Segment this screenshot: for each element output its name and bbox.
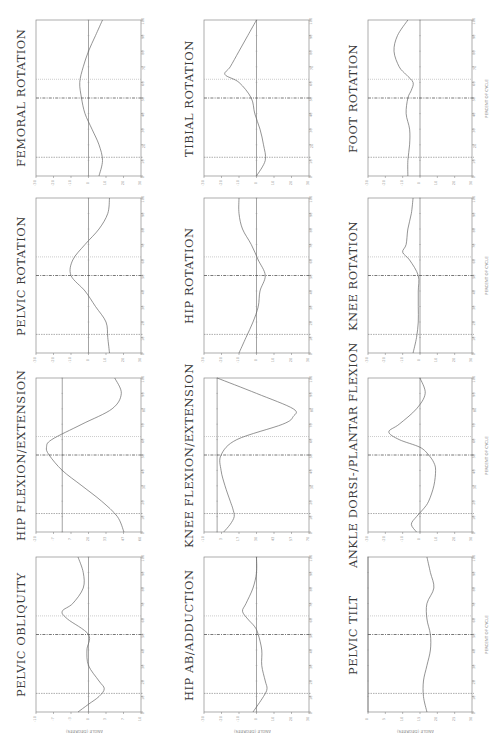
percent-tick-label: 50 [310, 274, 314, 279]
percent-tick-label: 20 [142, 143, 146, 148]
percent-tick-label: 60 [142, 81, 146, 86]
angle-tick-label: 33 [103, 537, 107, 542]
percent-tick-label: 60 [473, 81, 477, 86]
percent-tick-label: 20 [142, 499, 146, 504]
percent-tick-label: 80 [310, 49, 314, 54]
percent-tick-label: 30 [473, 127, 477, 132]
chart-title: HIP ROTATION [182, 227, 196, 323]
angle-tick-label: -30 [365, 356, 369, 363]
chart-title: FOOT ROTATION [346, 43, 360, 152]
angle-tick-label: 30 [138, 357, 142, 362]
percent-tick-label: 90 [310, 212, 314, 217]
percent-tick-label: 40 [473, 112, 477, 117]
percent-tick-label: 40 [142, 289, 146, 294]
chart-foot-rotation: 0102030405060708090100-30-20-100102030 [365, 17, 477, 186]
percent-tick-label: 90 [310, 34, 314, 39]
angle-tick-label: 47 [121, 537, 125, 542]
percent-tick-label: 60 [142, 258, 146, 263]
chart-title: KNEE FLEXION/EXTENSION [182, 363, 196, 548]
percent-tick-label: 10 [142, 515, 146, 520]
percent-tick-label: 10 [473, 159, 477, 164]
percent-tick-label: 20 [310, 679, 314, 684]
percent-tick-label: 50 [310, 453, 314, 458]
angle-tick-label: -20 [219, 715, 223, 722]
angle-tick-label: 0 [365, 717, 369, 720]
percent-tick-label: 30 [142, 664, 146, 669]
percent-tick-label: 70 [473, 65, 477, 70]
percent-tick-label: 40 [310, 289, 314, 294]
percent-tick-label: 100 [310, 195, 314, 203]
angle-tick-label: 20 [289, 180, 293, 185]
y-axis-label: ANGLE (DEGREES) [397, 729, 434, 734]
x-axis-label: PERCENT OF CYCLE [484, 436, 489, 475]
angle-tick-label: -30 [201, 356, 205, 363]
percent-tick-label: 70 [142, 422, 146, 427]
angle-tick-label: 3 [219, 538, 223, 540]
angle-tick-label: -10 [236, 179, 240, 186]
percent-tick-label: 50 [473, 633, 477, 638]
angle-tick-label: 10 [434, 357, 438, 362]
angle-tick-label: -20 [51, 356, 55, 363]
percent-tick-label: 60 [473, 438, 477, 443]
percent-tick-label: 30 [310, 305, 314, 310]
angle-tick-label: -10 [400, 179, 404, 186]
percent-tick-label: 30 [142, 127, 146, 132]
chart-hip-flexion-extension: 0102030405060708090100-20-7720334760 [33, 375, 146, 542]
chart-tibial-rotation: 0102030405060708090100-30-20-100102030 [201, 17, 314, 186]
angle-tick-label: 10 [103, 180, 107, 185]
percent-tick-label: 20 [473, 143, 477, 148]
angle-tick-label: -10 [400, 535, 404, 542]
percent-tick-label: 80 [473, 227, 477, 232]
percent-tick-label: 10 [142, 336, 146, 341]
angle-tick-label: -30 [365, 535, 369, 542]
percent-tick-label: 80 [310, 586, 314, 591]
percent-tick-label: 10 [142, 159, 146, 164]
angle-tick-label: 7 [121, 718, 125, 720]
angle-tick-label: 0 [417, 181, 421, 184]
angle-tick-label: -10 [201, 535, 205, 542]
angle-tick-label: -10 [33, 715, 37, 722]
angle-tick-label: -7 [51, 717, 55, 721]
percent-tick-label: 70 [142, 243, 146, 248]
percent-tick-label: 80 [142, 407, 146, 412]
percent-tick-label: 40 [310, 648, 314, 653]
percent-tick-label: 90 [473, 392, 477, 397]
percent-tick-label: 90 [142, 571, 146, 576]
chart-title: HIP AB/ADDUCTION [182, 569, 196, 701]
chart-title: PELVIC ROTATION [14, 216, 28, 336]
percent-tick-label: 30 [142, 305, 146, 310]
percent-tick-label: 60 [310, 81, 314, 86]
angle-tick-label: -30 [201, 715, 205, 722]
chart-hip-ab-adduction: 0102030405060708090100-30-20-100102030 [201, 554, 314, 722]
chart-title: HIP FLEXION/EXTENSION [14, 369, 28, 540]
chart-title: PELVIC OBLIQUITY [14, 572, 28, 697]
angle-tick-label: 10 [434, 536, 438, 541]
percent-tick-label: 60 [142, 438, 146, 443]
percent-tick-label: 30 [473, 484, 477, 489]
angle-tick-label: 20 [121, 357, 125, 362]
angle-tick-label: 17 [236, 537, 240, 542]
percent-tick-label: 70 [142, 65, 146, 70]
angle-tick-label: 20 [289, 357, 293, 362]
angle-tick-label: -20 [219, 356, 223, 363]
angle-tick-label: 30 [254, 536, 258, 541]
percent-tick-label: 90 [310, 392, 314, 397]
chart-pelvic-obliquity: 0102030405060708090100-10-7-303710 [33, 554, 146, 722]
percent-tick-label: 50 [310, 633, 314, 638]
angle-tick-label: 43 [271, 537, 275, 542]
percent-tick-label: 50 [142, 453, 146, 458]
percent-tick-label: 20 [473, 499, 477, 504]
angle-tick-label: -20 [382, 535, 386, 542]
percent-tick-label: 10 [310, 159, 314, 164]
chart-femoral-rotation: 0102030405060708090100-30-20-100102030 [33, 17, 146, 186]
angle-tick-label: -7 [51, 537, 55, 541]
percent-tick-label: 20 [473, 320, 477, 325]
percent-tick-label: 100 [142, 195, 146, 203]
angle-tick-label: 20 [121, 180, 125, 185]
percent-tick-label: 40 [142, 112, 146, 117]
angle-tick-label: -10 [400, 356, 404, 363]
x-axis-label: PERCENT OF CYCLE [484, 615, 489, 654]
percent-tick-label: 40 [473, 289, 477, 294]
angle-tick-label: 0 [417, 358, 421, 361]
percent-tick-label: 30 [310, 484, 314, 489]
